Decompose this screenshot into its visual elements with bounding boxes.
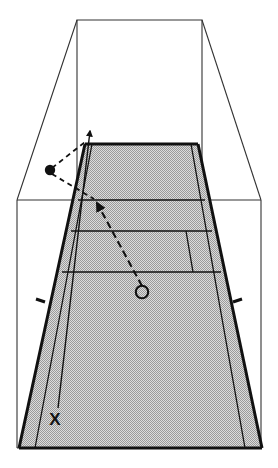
court-diagram-svg: X (0, 0, 278, 468)
ball-dot (45, 165, 55, 175)
court-diagram-figure: X (0, 0, 278, 468)
server-position-x: X (49, 410, 61, 429)
